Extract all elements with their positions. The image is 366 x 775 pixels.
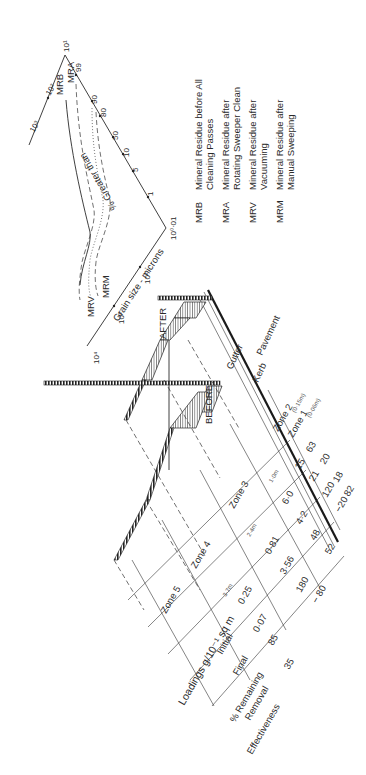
cell-removal: 35 (281, 656, 296, 671)
legend: MRB Mineral Residue before All Cleaning … (193, 79, 296, 223)
legend-code: MRB (193, 202, 204, 223)
cell-initial: 63 (303, 439, 318, 454)
legend-item-mrv: MRV Mineral Residue after Vacuuming (247, 100, 269, 223)
cell-remaining: 48 (307, 527, 322, 542)
cell-final: 21 (306, 468, 321, 483)
tick-80: 80 (99, 108, 108, 117)
tick-0-01: 10⁰·01 (169, 216, 178, 240)
street-cleaning-diagram: 99 90 80 50 10 5 1 10⁰·01 10¹ 10³ 10² 10… (0, 0, 366, 775)
loadings-table: Zone 5 Zone 4 Zone 3 Zone 2 Zone 1 3·7m … (128, 390, 356, 756)
before-label: BEFORE (203, 385, 214, 424)
after-bar-zone4 (142, 340, 168, 380)
cell-final: 4·2 (293, 509, 309, 526)
projection-line (114, 560, 144, 610)
kerb-label: Kerb (250, 361, 268, 384)
tick-1: 1 (146, 191, 155, 196)
zone-name: Zone 4 (188, 539, 212, 570)
cell-remaining: 18 (330, 469, 345, 484)
zone-line (132, 560, 214, 706)
curve-label-mrm: MRM (100, 275, 111, 298)
projection-line (146, 500, 200, 590)
table-line (128, 440, 290, 600)
legend-text: Rotating Sweeper Clean (231, 87, 242, 190)
zone-name: Zone 3 (226, 479, 250, 510)
zone-distance: 3·7m (222, 583, 234, 598)
cell-final: 20 (317, 451, 332, 466)
cell-initial: 6·0 (279, 489, 295, 506)
cell-initial: 0·25 (235, 584, 254, 606)
row-label-loadings: Loadings g/10⁻¹ sq m (175, 613, 236, 707)
legend-code: MRM (274, 200, 285, 223)
curve-mra (76, 84, 94, 300)
legend-text: Mineral Residue before All (193, 79, 204, 190)
legend-text: Mineral Residue after (220, 100, 231, 190)
curve-mrb (66, 100, 90, 285)
legend-item-mrm: MRM Mineral Residue after Manual Sweepin… (274, 100, 296, 223)
pavement-label: Pavement (254, 313, 282, 357)
legend-code: MRV (247, 201, 258, 223)
cell-initial: 0·81 (262, 534, 281, 556)
tick-10-1: 10¹ (62, 40, 71, 52)
cell-remaining: 120 (319, 480, 336, 499)
before-rail (44, 381, 220, 385)
legend-item-mrb: MRB Mineral Residue before All Cleaning … (193, 79, 215, 223)
zone-name: Zone 5 (158, 584, 182, 615)
top-axis-tick (47, 97, 49, 99)
legend-text: Manual Sweeping (285, 114, 296, 190)
cell-removal: 82 (341, 483, 356, 498)
grain-size-graph: 99 90 80 50 10 5 1 10⁰·01 10¹ 10³ 10² 10… (28, 40, 178, 364)
cell-removal: 52 (322, 541, 337, 556)
legend-code: MRA (220, 201, 231, 223)
cell-final: 3·56 (277, 554, 296, 576)
after-rail (158, 296, 212, 300)
tick-50: 50 (111, 131, 120, 140)
cell-remaining: 85 (265, 632, 280, 647)
curve-label-mra: MRA (65, 61, 76, 83)
curve-label-mrv: MRV (85, 295, 96, 317)
legend-text: Mineral Residue after (247, 100, 258, 190)
legend-text: Mineral Residue after (274, 100, 285, 190)
tick-90: 90 (90, 95, 99, 104)
legend-text: Vacuuming (258, 143, 269, 190)
table-line (212, 556, 344, 706)
grain-tick-10-4: 10⁴ (92, 351, 101, 364)
curve-label-mrb: MRB (54, 74, 65, 95)
after-bar-zone5 (124, 380, 146, 420)
legend-item-mra: MRA Mineral Residue after Rotating Sweep… (220, 87, 242, 223)
after-label: AFTER (157, 308, 168, 339)
legend-text: Cleaning Passes (204, 118, 215, 190)
before-bar-zone4 (146, 428, 174, 500)
before-bar-zone5 (114, 500, 150, 560)
grain-axis (87, 228, 166, 346)
cell-removal: − 80 (309, 583, 328, 605)
cell-remaining: 180 (293, 575, 310, 594)
after-bar-gutter (174, 302, 206, 318)
curve-mrv (89, 108, 104, 300)
tick-5: 5 (131, 167, 140, 172)
zone-distance: (0·06m) (306, 397, 322, 418)
top-tick-10-3: 10³ (28, 119, 42, 134)
cell-removal: −20 (332, 495, 350, 514)
row-label-final: Final (230, 654, 250, 677)
tick-10: 10 (122, 148, 131, 157)
zone-distance: 2·4m (246, 523, 258, 538)
zone-distance: 1·0m (268, 469, 280, 484)
cell-final: 0·07 (250, 612, 269, 634)
